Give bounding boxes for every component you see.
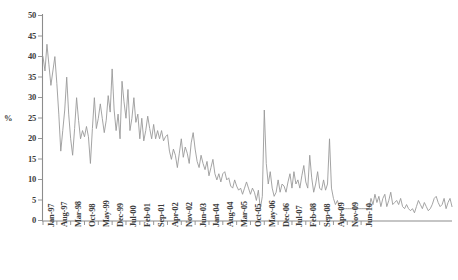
xtick-label: Dec-99 — [116, 203, 125, 227]
xtick-label: Mar-98 — [74, 201, 83, 227]
xtick-label: Jul-07 — [295, 206, 304, 227]
xtick-label: Feb-01 — [143, 203, 152, 227]
xtick-label: Jan-04 — [212, 204, 221, 227]
xtick-label: Jul-00 — [129, 206, 138, 227]
chart-figure: 50 45 40 35 30 25 20 15 10 5 0 % Jan-97A… — [0, 0, 458, 280]
xtick-label: Aug-97 — [60, 202, 69, 227]
xtick-label: Aug-04 — [226, 202, 235, 227]
xtick-label: May-06 — [268, 200, 277, 227]
xtick-label: Nov-02 — [185, 202, 194, 227]
xtick-label: Jun-10 — [365, 203, 374, 227]
xtick-label: Jun-03 — [199, 203, 208, 227]
xtick-label: Oct-05 — [254, 204, 263, 227]
xtick-label: Jan-97 — [47, 204, 56, 227]
xtick-label: Apr-09 — [337, 203, 346, 227]
xtick-label: May-99 — [102, 200, 111, 227]
xtick-label: Feb-08 — [309, 203, 318, 227]
plot-area — [0, 0, 458, 280]
xtick-label: Nov-09 — [351, 202, 360, 227]
axis-ticks-y — [38, 16, 42, 221]
xtick-label: Dec-06 — [282, 203, 291, 227]
xtick-label: Apr-02 — [171, 203, 180, 227]
data-series-line — [43, 44, 452, 213]
xtick-label: Sep-08 — [323, 204, 332, 227]
xtick-label: Mar-05 — [240, 201, 249, 227]
xtick-label: Oct-98 — [88, 204, 97, 227]
xtick-label: Sep-01 — [157, 204, 166, 227]
